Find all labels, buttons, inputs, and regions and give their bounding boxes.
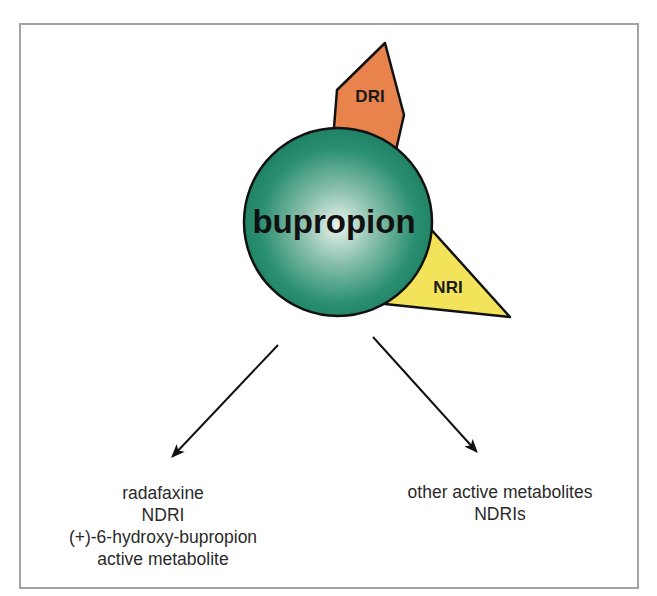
left-output-caption: radafaxine NDRI (+)-6-hydroxy-bupropion … (40, 482, 286, 570)
right-output-caption: other active metabolites NDRIs (370, 481, 630, 525)
dri-label: DRI (355, 87, 384, 106)
caption-line: radafaxine (40, 482, 286, 504)
caption-line: (+)-6-hydroxy-bupropion (40, 526, 286, 548)
bupropion-node: bupropion (244, 128, 432, 316)
nri-label: NRI (433, 278, 462, 297)
caption-line: NDRIs (370, 503, 630, 525)
caption-line: NDRI (40, 504, 286, 526)
arrow-left (173, 345, 278, 456)
caption-line: active metabolite (40, 548, 286, 570)
arrow-right (373, 337, 476, 451)
bupropion-label: bupropion (252, 203, 415, 240)
caption-line: other active metabolites (370, 481, 630, 503)
